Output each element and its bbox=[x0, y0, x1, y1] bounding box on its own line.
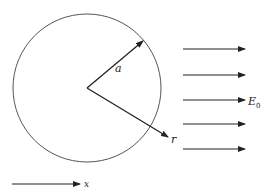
diagram-canvas: a r E0 x bbox=[0, 0, 263, 189]
position-r-arrow bbox=[87, 88, 168, 137]
field-arrows bbox=[183, 49, 245, 149]
x-axis-label: x bbox=[84, 179, 89, 189]
radius-label: a bbox=[115, 62, 122, 75]
field-label: E0 bbox=[247, 95, 261, 110]
position-label: r bbox=[171, 133, 177, 146]
